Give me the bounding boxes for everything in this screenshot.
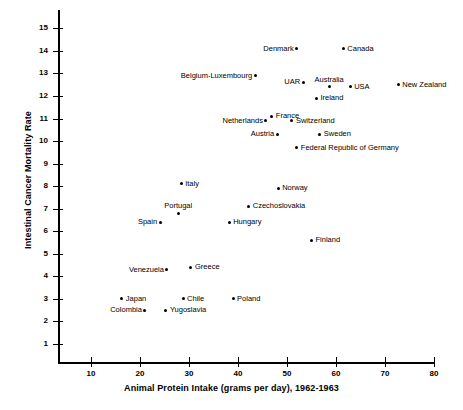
y-tick-mark: [53, 231, 63, 232]
y-tick-mark: [53, 344, 63, 345]
y-axis-title: Intestinal Cancer Mortality Rate: [23, 90, 33, 270]
data-point-label: Netherlands: [222, 117, 262, 125]
y-tick-mark: [53, 119, 63, 120]
y-tick-mark: [53, 299, 63, 300]
data-point-label: New Zealand: [402, 81, 446, 89]
y-tick-label: 1: [24, 340, 48, 348]
x-tick-mark: [385, 357, 386, 367]
data-point-label: Belgium-Luxembourg: [181, 72, 252, 80]
data-point-label: Venezuela: [129, 266, 164, 274]
data-point-label: USA: [354, 83, 369, 91]
data-point: [295, 146, 298, 149]
x-tick-label: 10: [79, 370, 103, 378]
data-point-label: Colombia: [110, 306, 142, 314]
x-tick-label: 20: [128, 370, 152, 378]
data-point-label: Greece: [195, 263, 220, 271]
data-point: [165, 268, 168, 271]
y-tick-label: 15: [24, 24, 48, 32]
y-tick-mark: [53, 209, 63, 210]
data-point-label: Sweden: [324, 130, 351, 138]
data-point: [277, 187, 280, 190]
x-axis-title: Animal Protein Intake (grams per day), 1…: [0, 383, 463, 393]
data-point-label: Yugoslavia: [170, 306, 206, 314]
data-point: [349, 85, 352, 88]
y-tick-label: 4: [24, 272, 48, 280]
x-tick-label: 30: [177, 370, 201, 378]
data-point: [270, 115, 273, 118]
data-point: [180, 182, 183, 185]
data-point-label: Canada: [347, 45, 373, 53]
y-tick-mark: [53, 96, 63, 97]
data-point: [397, 83, 400, 86]
data-point: [295, 47, 298, 50]
data-point: [143, 309, 146, 312]
data-point: [302, 81, 305, 84]
x-tick-label: 50: [275, 370, 299, 378]
data-point: [318, 133, 321, 136]
data-point-label: Federal Republic of Germany: [301, 144, 399, 152]
x-tick-mark: [238, 357, 239, 367]
y-tick-mark: [53, 164, 63, 165]
data-point-label: Ireland: [320, 94, 343, 102]
x-tick-mark: [140, 357, 141, 367]
data-point: [232, 297, 235, 300]
data-point: [247, 205, 250, 208]
data-point: [328, 85, 331, 88]
y-tick-mark: [53, 51, 63, 52]
x-tick-label: 80: [422, 370, 446, 378]
data-point: [264, 119, 267, 122]
data-point: [189, 266, 192, 269]
x-tick-mark: [287, 357, 288, 367]
y-tick-mark: [53, 321, 63, 322]
data-point: [228, 221, 231, 224]
data-point-label: Australia: [315, 76, 344, 84]
x-axis-line: [58, 362, 435, 364]
y-tick-mark: [53, 141, 63, 142]
data-point-label: Portugal: [164, 202, 192, 210]
x-tick-label: 70: [373, 370, 397, 378]
data-point-label: Italy: [185, 180, 199, 188]
data-point-label: Czechoslovakia: [253, 202, 306, 210]
data-point: [315, 97, 318, 100]
data-point-label: Switzerland: [296, 117, 335, 125]
data-point: [254, 74, 257, 77]
data-point-label: UAR: [284, 78, 300, 86]
x-tick-mark: [189, 357, 190, 367]
y-tick-mark: [53, 28, 63, 29]
data-point-label: Spain: [138, 218, 157, 226]
data-point-label: Austria: [251, 130, 274, 138]
y-tick-mark: [53, 276, 63, 277]
data-point: [290, 119, 293, 122]
data-point: [120, 297, 123, 300]
data-point-label: Denmark: [263, 45, 293, 53]
data-point: [164, 309, 167, 312]
data-point-label: Japan: [126, 295, 146, 303]
y-tick-label: 3: [24, 295, 48, 303]
data-point-label: Norway: [282, 184, 307, 192]
y-tick-label: 13: [24, 69, 48, 77]
x-tick-mark: [91, 357, 92, 367]
data-point: [310, 239, 313, 242]
scatter-plot: 123456789101112131415 1020304050607080 D…: [0, 0, 463, 410]
y-tick-mark: [53, 73, 63, 74]
data-point: [177, 212, 180, 215]
data-point: [159, 221, 162, 224]
x-tick-label: 40: [226, 370, 250, 378]
y-tick-label: 2: [24, 317, 48, 325]
data-point-label: Poland: [237, 295, 260, 303]
x-tick-label: 60: [324, 370, 348, 378]
y-tick-mark: [53, 186, 63, 187]
x-tick-mark: [434, 357, 435, 367]
x-tick-mark: [336, 357, 337, 367]
data-point-label: Finland: [316, 236, 341, 244]
data-point: [276, 133, 279, 136]
data-point: [182, 297, 185, 300]
data-point: [342, 47, 345, 50]
y-tick-label: 14: [24, 47, 48, 55]
y-tick-mark: [53, 254, 63, 255]
data-point-label: Hungary: [233, 218, 261, 226]
data-point-label: Chile: [187, 295, 204, 303]
